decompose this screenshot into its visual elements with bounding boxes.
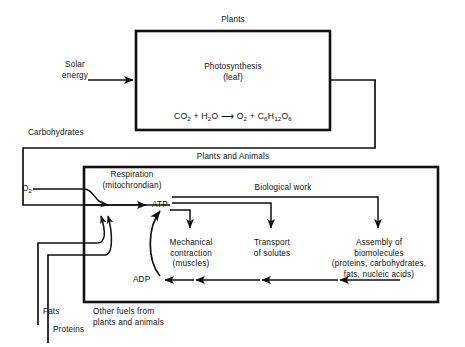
photosynthesis-label: Photosynthesis (leaf) [204,62,262,83]
fats-curve-arrow [97,216,104,243]
transport-of-solutes-label: Transport of solutes [254,238,291,259]
proteins-curve-arrow [105,216,111,255]
biological-work-label: Biological work [255,183,312,194]
other-fuels-label: Other fuels from plants and animals [93,307,164,328]
oxygen-label: O2 [22,184,32,195]
metabolism-flow-diagram: Plants Solar energy Photosynthesis (leaf… [0,0,465,347]
solar-energy-label: Solar energy [62,60,88,81]
plants-animals-outer-path [23,80,375,205]
proteins-label: Proteins [53,325,84,336]
atp-to-transport-line [172,203,271,228]
fats-label: Fats [43,307,60,318]
respiration-label: Respiration (mitochrondian) [102,170,161,191]
adp-to-atp-curve-arrow [150,211,160,276]
mechanical-contraction-label: Mechanical contraction (muscles) [170,238,213,270]
carbohydrates-label: Carbohydrates [28,128,84,139]
assembly-of-biomolecules-label: Assembly of biomolecules (proteins, carb… [332,238,426,280]
atp-to-mechanical-line [170,210,190,228]
atp-to-assembly-line [172,197,378,228]
oxygen-curve-arrow [84,189,108,205]
plants-animals-box-title: Plants and Animals [197,152,269,163]
diagram-connector-layer [0,0,465,347]
atp-label: ATP [152,200,168,211]
photosynthesis-equation: CO2 + H2O ⟶ O2 + C6H12O6 [174,111,292,123]
plants-box-title: Plants [221,15,245,26]
adp-label: ADP [133,275,150,286]
